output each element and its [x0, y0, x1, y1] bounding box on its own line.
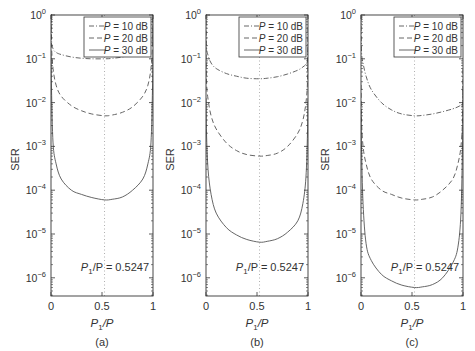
optimal-ratio-annotation: P1/P = 0.5247 — [81, 261, 149, 276]
optimal-ratio-annotation: P1/P = 0.5247 — [236, 261, 304, 276]
y-axis-label: SER — [9, 148, 21, 171]
x-tick-label: 1 — [305, 300, 311, 312]
legend-entry: P = 10 dB — [259, 21, 304, 32]
legend-entry: P = 30 dB — [259, 45, 304, 56]
y-tick-label: 10−1 — [26, 51, 46, 65]
panel-label: (c) — [406, 336, 419, 348]
x-tick-label: 0.5 — [404, 300, 419, 312]
y-tick-label: 10−3 — [336, 138, 356, 152]
y-tick-label: 10−6 — [336, 270, 356, 284]
y-tick-label: 10−6 — [181, 270, 201, 284]
y-tick-label: 100 — [30, 7, 46, 21]
chart-panel-a: 10010−110−210−310−410−510−600.51SERP1/P(… — [9, 3, 156, 348]
x-tick-label: 0 — [48, 300, 54, 312]
y-tick-label: 10−3 — [26, 138, 46, 152]
x-tick-label: 0.5 — [249, 300, 264, 312]
x-tick-label: 0 — [203, 300, 209, 312]
y-tick-label: 100 — [185, 7, 201, 21]
y-tick-label: 10−1 — [336, 51, 356, 65]
y-tick-label: 10−4 — [26, 182, 46, 196]
x-tick-label: 1 — [150, 300, 156, 312]
legend-entry: P = 10 dB — [104, 21, 149, 32]
legend-entry: P = 30 dB — [414, 45, 459, 56]
legend: P = 10 dBP = 20 dBP = 30 dB — [239, 17, 306, 57]
x-tick-label: 0 — [358, 300, 364, 312]
chart-panel-c: 10010−110−210−310−410−510−600.51SERP1/P(… — [319, 7, 466, 348]
x-axis-label: P1/P — [246, 317, 269, 332]
series-line-20db — [361, 85, 463, 200]
y-axis-label: SER — [164, 148, 176, 171]
panel-label: (b) — [250, 336, 263, 348]
series-line-30db — [51, 54, 153, 200]
y-tick-label: 10−5 — [336, 226, 356, 240]
legend: P = 10 dBP = 20 dBP = 30 dB — [84, 17, 151, 57]
legend-entry: P = 20 dB — [104, 33, 149, 44]
legend-entry: P = 20 dB — [414, 33, 459, 44]
x-tick-label: 1 — [460, 300, 466, 312]
y-tick-label: 10−3 — [181, 138, 201, 152]
legend-entry: P = 10 dB — [414, 21, 459, 32]
legend-entry: P = 30 dB — [104, 45, 149, 56]
legend: P = 10 dBP = 20 dBP = 30 dB — [394, 17, 461, 57]
x-axis-label: P1/P — [91, 317, 114, 332]
y-tick-label: 10−5 — [181, 226, 201, 240]
chart-panel-b: 10010−110−210−310−410−510−600.51SERP1/P(… — [164, 7, 311, 348]
y-tick-label: 100 — [340, 7, 356, 21]
x-tick-label: 0.5 — [94, 300, 109, 312]
y-tick-label: 10−2 — [336, 95, 356, 109]
y-tick-label: 10−2 — [181, 95, 201, 109]
panel-label: (a) — [95, 336, 108, 348]
y-tick-label: 10−5 — [26, 226, 46, 240]
y-tick-label: 10−2 — [26, 95, 46, 109]
legend-entry: P = 20 dB — [259, 33, 304, 44]
x-axis-label: P1/P — [401, 317, 424, 332]
y-axis-label: SER — [319, 148, 331, 171]
y-tick-label: 10−4 — [181, 182, 201, 196]
series-line-30db — [206, 98, 308, 242]
y-tick-label: 10−1 — [181, 51, 201, 65]
y-tick-label: 10−4 — [336, 182, 356, 196]
optimal-ratio-annotation: P1/P = 0.5247 — [391, 261, 459, 276]
series-line-20db — [206, 47, 308, 156]
y-tick-label: 10−6 — [26, 270, 46, 284]
ser-figure: 10010−110−210−310−410−510−600.51SERP1/P(… — [0, 0, 475, 351]
